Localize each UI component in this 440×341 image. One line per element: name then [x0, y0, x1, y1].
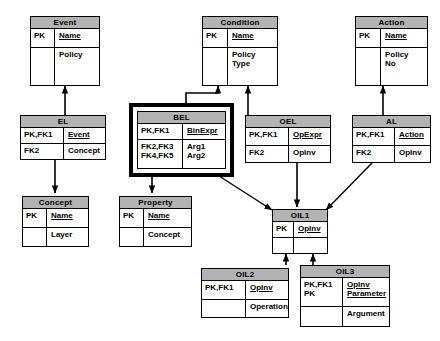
row-attribute: OpInv — [289, 146, 330, 163]
row-key: PK,FK1 — [246, 128, 289, 145]
entity-bel-title: BEL — [138, 112, 225, 124]
row-attribute: Event — [64, 128, 105, 143]
entity-action-title: Action — [356, 17, 427, 29]
er-diagram-canvas: Event PK Name Policy Condition PK Name P… — [0, 0, 440, 341]
row-key — [356, 48, 381, 86]
row-attribute: Argument — [343, 307, 389, 327]
row-key: FK2 — [246, 146, 289, 163]
entity-action[interactable]: Action PK Name Policy No — [355, 16, 428, 86]
row-attribute: Concept — [64, 144, 105, 160]
row-attribute: OpInv — [395, 146, 430, 163]
row-attribute: Operation — [246, 300, 290, 318]
entity-condition[interactable]: Condition PK Name Policy Type — [202, 16, 278, 86]
table-row: FK2 OpInv — [353, 146, 430, 163]
row-key — [301, 307, 343, 327]
entity-el[interactable]: EL PK,FK1 Event FK2 Concept — [20, 115, 106, 160]
row-key — [31, 48, 55, 86]
row-attribute: Name — [228, 29, 277, 47]
row-key: PK,FK1 — [353, 128, 395, 145]
row-key: PK — [31, 29, 55, 47]
row-key: FK2 — [353, 146, 395, 163]
row-key — [23, 228, 47, 247]
entity-concept-title: Concept — [23, 197, 88, 209]
row-attribute: OpInv Parameter — [343, 278, 389, 306]
table-row: PK OpInv — [273, 222, 327, 238]
entity-oil2-title: OIL2 — [202, 269, 288, 281]
row-attribute: Concept — [144, 228, 191, 247]
row-attribute: OpExpr — [289, 128, 330, 145]
row-attribute: OpInv — [246, 281, 288, 299]
table-row: Concept — [120, 228, 191, 247]
entity-concept[interactable]: Concept PK Name Layer — [22, 196, 89, 247]
entity-oil3-title: OIL3 — [301, 266, 389, 278]
row-attribute: Action — [395, 128, 430, 145]
entity-el-title: EL — [21, 116, 105, 128]
table-row: Policy — [31, 48, 99, 86]
row-attribute: Name — [144, 209, 191, 227]
table-row: FK2,FK3 FK4,FK5 Arg1 Arg2 — [138, 140, 225, 169]
row-key: PK — [120, 209, 144, 227]
row-attribute: Layer — [47, 228, 88, 247]
row-key — [202, 300, 246, 318]
table-row: Layer — [23, 228, 88, 247]
row-attribute: Policy — [55, 48, 99, 86]
entity-oil1[interactable]: OIL1 PK OpInv — [272, 209, 328, 254]
row-key: FK2 — [21, 144, 64, 160]
table-row: PK,FK1 OpExpr — [246, 128, 330, 146]
table-row: PK Name — [31, 29, 99, 48]
table-row: PK,FK1 Event — [21, 128, 105, 144]
entity-al[interactable]: AL PK,FK1 Action FK2 OpInv — [352, 115, 431, 163]
row-attribute: Name — [55, 29, 99, 47]
entity-event-title: Event — [31, 17, 99, 29]
row-key: PK,FK1 — [21, 128, 64, 143]
row-attribute: Policy Type — [228, 48, 277, 86]
row-key: PK,FK1 — [138, 124, 183, 139]
table-row: PK Name — [203, 29, 277, 48]
entity-oil3[interactable]: OIL3 PK,FK1 PK OpInv Parameter Argument — [300, 265, 390, 327]
table-row: Policy No — [356, 48, 427, 86]
row-attribute: Policy No — [381, 48, 427, 86]
row-attribute: Name — [47, 209, 88, 227]
row-key — [273, 238, 294, 254]
edge-al-oil1 — [326, 163, 372, 210]
row-attribute: Arg1 Arg2 — [183, 140, 225, 169]
table-row: FK2 Concept — [21, 144, 105, 160]
row-key: PK,FK1 — [202, 281, 246, 299]
entity-bel[interactable]: BEL PK,FK1 BinExpr FK2,FK3 FK4,FK5 Arg1 … — [137, 111, 226, 169]
row-key: PK,FK1 PK — [301, 278, 343, 306]
table-row: PK,FK1 PK OpInv Parameter — [301, 278, 389, 307]
row-key: PK — [273, 222, 294, 237]
table-row: Policy Type — [203, 48, 277, 86]
edge-bel-condition — [186, 86, 218, 103]
table-row: PK Name — [23, 209, 88, 228]
table-row: Operation — [202, 300, 288, 318]
table-row: FK2 OpInv — [246, 146, 330, 163]
row-key: FK2,FK3 FK4,FK5 — [138, 140, 183, 169]
row-attribute: BinExpr — [183, 124, 225, 139]
entity-property-title: Property — [120, 197, 191, 209]
entity-oil2[interactable]: OIL2 PK,FK1 OpInv Operation — [201, 268, 289, 318]
entity-event[interactable]: Event PK Name Policy — [30, 16, 100, 86]
table-row: Argument — [301, 307, 389, 327]
entity-al-title: AL — [353, 116, 430, 128]
row-attribute: Name — [381, 29, 427, 47]
row-key — [203, 48, 228, 86]
edge-bel-oil1 — [216, 174, 272, 210]
table-row: PK Name — [120, 209, 191, 228]
row-key: PK — [356, 29, 381, 47]
table-row: PK Name — [356, 29, 427, 48]
row-attribute — [294, 238, 327, 254]
row-attribute: OpInv — [294, 222, 327, 237]
entity-property[interactable]: Property PK Name Concept — [119, 196, 192, 247]
entity-oil1-title: OIL1 — [273, 210, 327, 222]
entity-condition-title: Condition — [203, 17, 277, 29]
table-row: PK,FK1 OpInv — [202, 281, 288, 300]
row-key: PK — [203, 29, 228, 47]
table-row — [273, 238, 327, 254]
table-row: PK,FK1 BinExpr — [138, 124, 225, 140]
table-row: PK,FK1 Action — [353, 128, 430, 146]
entity-oel-title: OEL — [246, 116, 330, 128]
row-key — [120, 228, 144, 247]
row-key: PK — [23, 209, 47, 227]
entity-oel[interactable]: OEL PK,FK1 OpExpr FK2 OpInv — [245, 115, 331, 163]
